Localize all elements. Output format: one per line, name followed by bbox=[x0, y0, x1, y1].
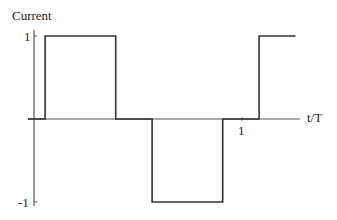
y-tick-label-bottom: -1 bbox=[18, 196, 29, 209]
y-axis-title: Current bbox=[12, 9, 52, 22]
y-tick-label-top: 1 bbox=[24, 30, 31, 43]
square-wave-chart bbox=[0, 0, 337, 220]
x-tick-label-one: 1 bbox=[238, 124, 245, 137]
x-axis-title: t/T bbox=[307, 111, 322, 124]
